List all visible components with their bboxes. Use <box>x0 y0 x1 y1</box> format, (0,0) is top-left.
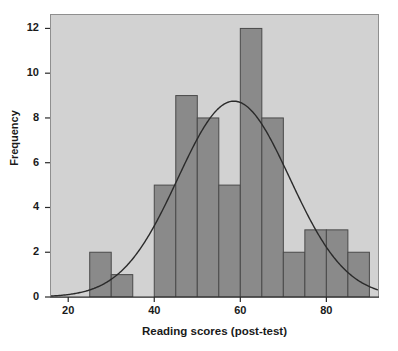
plot-graphics <box>51 15 378 297</box>
y-tick-label: 6 <box>17 157 39 168</box>
histogram-bar <box>240 28 262 297</box>
histogram-bar <box>111 275 133 297</box>
y-tick-label: 2 <box>17 246 39 257</box>
histogram-bar <box>154 185 176 297</box>
y-tick-label: 10 <box>17 67 39 78</box>
y-tick-label: 4 <box>17 201 39 212</box>
y-tick-label: 8 <box>17 112 39 123</box>
histogram-bar <box>90 252 112 297</box>
x-tick-label: 80 <box>311 305 341 316</box>
y-tick-label: 12 <box>17 22 39 33</box>
x-tick-label: 20 <box>53 305 83 316</box>
y-tick-label: 0 <box>17 291 39 302</box>
histogram-bar <box>197 118 219 297</box>
histogram-bar <box>219 185 241 297</box>
histogram-bar <box>326 230 348 297</box>
y-axis-title: Frequency <box>8 98 20 178</box>
x-axis-title: Reading scores (post-test) <box>50 325 379 337</box>
x-tick-label: 60 <box>225 305 255 316</box>
histogram-bar <box>262 118 284 297</box>
histogram-bars <box>90 28 370 297</box>
x-tick-label: 40 <box>139 305 169 316</box>
histogram-bar <box>176 96 198 297</box>
plot-area <box>50 14 379 298</box>
histogram-chart: 024681012 20406080 Frequency Reading sco… <box>0 0 398 351</box>
histogram-bar <box>305 230 327 297</box>
histogram-bar <box>283 252 305 297</box>
